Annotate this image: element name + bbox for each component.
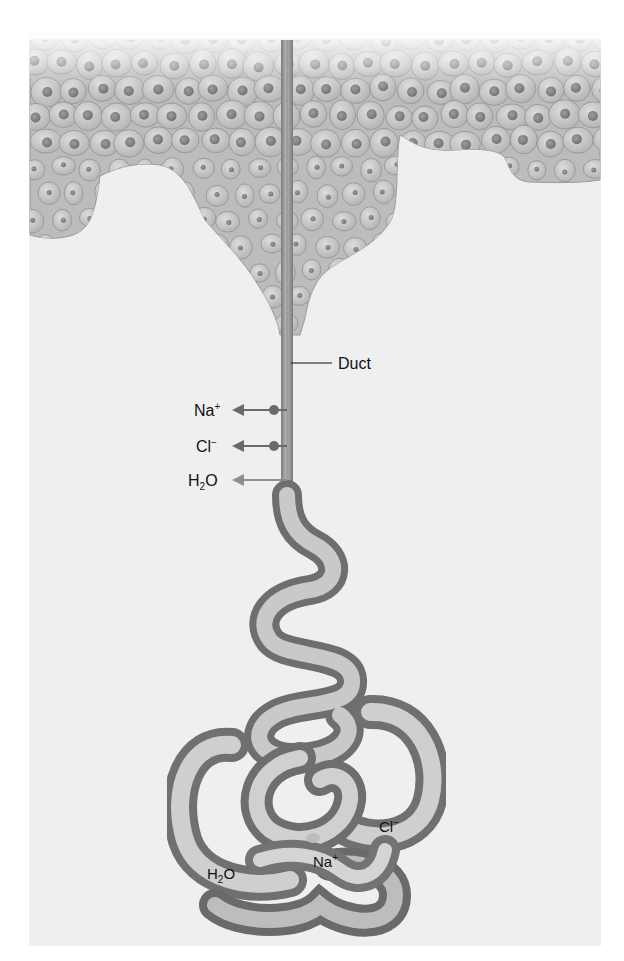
epidermal-cell — [593, 127, 621, 153]
cell-nucleus — [518, 135, 528, 145]
cell-nucleus — [602, 136, 612, 146]
cell-nucleus — [607, 191, 612, 196]
cell-nucleus — [380, 190, 385, 195]
cell-nucleus — [258, 271, 263, 276]
cell-nucleus — [257, 217, 262, 222]
coil-gap — [306, 833, 320, 843]
cell-nucleus — [110, 112, 120, 122]
cell-nucleus — [353, 190, 358, 195]
cell-nucleus — [533, 113, 543, 123]
cell-nucleus — [562, 169, 567, 174]
cell-nucleus — [31, 166, 36, 171]
cell-nucleus — [367, 169, 372, 174]
cell-nucleus — [270, 242, 275, 247]
cell-nucleus — [369, 215, 374, 220]
sodium-carrier-icon — [269, 405, 279, 415]
cell-nucleus — [337, 111, 347, 121]
cell-nucleus — [534, 167, 539, 172]
duct — [281, 40, 293, 500]
chloride-carrier-icon — [269, 441, 279, 451]
cell-nucleus — [437, 88, 447, 98]
cell-nucleus — [254, 111, 264, 121]
cell-nucleus — [59, 110, 69, 120]
cell-nucleus — [47, 190, 52, 195]
duct-label: Duct — [338, 355, 371, 372]
cell-nucleus — [604, 296, 609, 301]
cell-nucleus — [508, 110, 518, 120]
cell-nucleus — [604, 241, 609, 246]
cell-nucleus — [407, 87, 417, 97]
cell-nucleus — [315, 165, 320, 170]
cell-nucleus — [153, 134, 163, 144]
cell-nucleus — [101, 139, 111, 149]
cell-nucleus — [61, 218, 66, 223]
cell-nucleus — [70, 190, 75, 195]
cell-nucleus — [591, 168, 596, 173]
cell-nucleus — [572, 134, 582, 144]
cell-nucleus — [83, 110, 93, 120]
cell-nucleus — [353, 247, 358, 252]
cell-nucleus — [227, 109, 237, 119]
cell-nucleus — [42, 138, 52, 148]
cell-nucleus — [308, 108, 318, 118]
top-fade — [29, 28, 601, 88]
cell-nucleus — [546, 139, 556, 149]
cell-nucleus — [266, 136, 276, 146]
cell-nucleus — [210, 134, 220, 144]
cell-nucleus — [69, 139, 79, 149]
cell-nucleus — [242, 194, 247, 199]
cell-nucleus — [180, 135, 190, 145]
cell-nucleus — [419, 112, 429, 122]
cell-nucleus — [125, 137, 135, 147]
cell-nucleus — [352, 139, 362, 149]
cell-nucleus — [339, 164, 344, 169]
cell-nucleus — [600, 33, 610, 43]
cell-nucleus — [86, 167, 91, 172]
cell-nucleus — [434, 138, 444, 148]
cell-nucleus — [31, 113, 41, 123]
cell-nucleus — [326, 195, 331, 200]
cell-nucleus — [309, 268, 314, 273]
cell-nucleus — [321, 140, 331, 150]
cell-nucleus — [68, 88, 78, 98]
cell-nucleus — [226, 220, 231, 225]
cell-nucleus — [311, 216, 316, 221]
cell-nucleus — [30, 218, 35, 223]
cell-nucleus — [588, 111, 598, 121]
cell-nucleus — [341, 219, 346, 224]
cell-nucleus — [492, 134, 502, 144]
cell-nucleus — [268, 191, 273, 196]
cell-nucleus — [560, 109, 570, 119]
sweat-gland-diagram: Duct Na+ Cl− H2O H2O Na+ Cl− — [0, 0, 624, 961]
cell-nucleus — [201, 165, 206, 170]
cell-nucleus — [139, 110, 149, 120]
cell-nucleus — [381, 137, 391, 147]
cell-nucleus — [293, 241, 298, 246]
cell-nucleus — [367, 109, 377, 119]
cell-nucleus — [236, 137, 246, 147]
epidermal-cell — [598, 181, 618, 204]
cell-nucleus — [197, 111, 207, 121]
cell-nucleus — [297, 293, 302, 298]
cell-nucleus — [395, 111, 405, 121]
cell-nucleus — [238, 245, 243, 250]
cell-nucleus — [215, 192, 220, 197]
cell-nucleus — [166, 111, 176, 121]
cell-nucleus — [295, 190, 300, 195]
cell-nucleus — [461, 140, 471, 150]
cell-nucleus — [258, 165, 263, 170]
cell-nucleus — [449, 109, 459, 119]
cell-nucleus — [61, 162, 66, 167]
cell-nucleus — [229, 167, 234, 172]
cell-nucleus — [326, 245, 331, 250]
cell-nucleus — [270, 294, 275, 299]
cell-nucleus — [475, 112, 485, 122]
cell-nucleus — [42, 87, 52, 97]
